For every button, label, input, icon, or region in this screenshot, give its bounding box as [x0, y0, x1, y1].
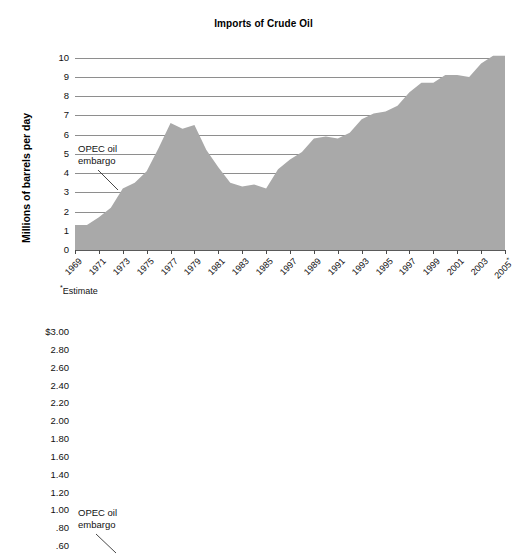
annotation-opec-embargo-imports: OPEC oil embargo — [78, 143, 117, 167]
x-tick — [433, 250, 434, 254]
x-tick — [338, 250, 339, 254]
x-tick — [266, 250, 267, 254]
y-tick-label: 1.20 — [13, 488, 69, 498]
x-tick — [99, 250, 100, 254]
annotation-line-1: OPEC oil — [78, 143, 117, 155]
y-tick-label: 9 — [13, 72, 69, 82]
y-tick-label: 2.80 — [13, 345, 69, 355]
chart-title-imports: Imports of Crude Oil — [0, 18, 527, 29]
y-tick-label: 1.40 — [13, 470, 69, 480]
x-tick — [481, 250, 482, 254]
y-tick-label: 4 — [13, 168, 69, 178]
x-tick — [75, 250, 76, 254]
x-axis-imports — [75, 250, 505, 251]
y-tick-label: 2.40 — [13, 381, 69, 391]
y-tick-label: 1.80 — [13, 434, 69, 444]
y-tick-label: 2.20 — [13, 398, 69, 408]
y-tick-label: 2.60 — [13, 363, 69, 373]
x-tick — [194, 250, 195, 254]
x-tick — [409, 250, 410, 254]
y-tick-label: 5 — [13, 149, 69, 159]
y-tick-label: 10 — [13, 53, 69, 63]
annotation-opec-embargo-gasoline: OPEC oil embargo — [78, 507, 117, 531]
y-tick-label: $3.00 — [13, 327, 69, 337]
x-tick — [362, 250, 363, 254]
y-tick-label: 3 — [13, 187, 69, 197]
x-tick — [242, 250, 243, 254]
area-series — [75, 50, 505, 250]
y-tick-label: 1 — [13, 226, 69, 236]
y-tick-label: 1.00 — [13, 505, 69, 515]
x-tick — [218, 250, 219, 254]
x-tick — [147, 250, 148, 254]
x-tick — [505, 250, 506, 254]
annotation-line-2: embargo — [78, 519, 117, 531]
oil-figure: Imports of Crude Oil Millions of barrels… — [0, 0, 527, 555]
y-tick-label: 2 — [13, 207, 69, 217]
x-tick — [386, 250, 387, 254]
y-tick-label: 2.00 — [13, 416, 69, 426]
x-tick — [314, 250, 315, 254]
y-tick-label: 0 — [13, 245, 69, 255]
y-tick-label: .60 — [13, 541, 69, 551]
x-tick — [457, 250, 458, 254]
y-tick-label: 1.60 — [13, 452, 69, 462]
annotation-line-1: OPEC oil — [78, 507, 117, 519]
y-tick-label: .80 — [13, 523, 69, 533]
y-tick-label: 7 — [13, 110, 69, 120]
y-tick-label: 6 — [13, 130, 69, 140]
y-tick-label: 8 — [13, 91, 69, 101]
plot-area-imports — [75, 50, 505, 250]
annotation-line-2: embargo — [78, 155, 117, 167]
x-tick — [123, 250, 124, 254]
x-tick — [171, 250, 172, 254]
x-tick — [290, 250, 291, 254]
